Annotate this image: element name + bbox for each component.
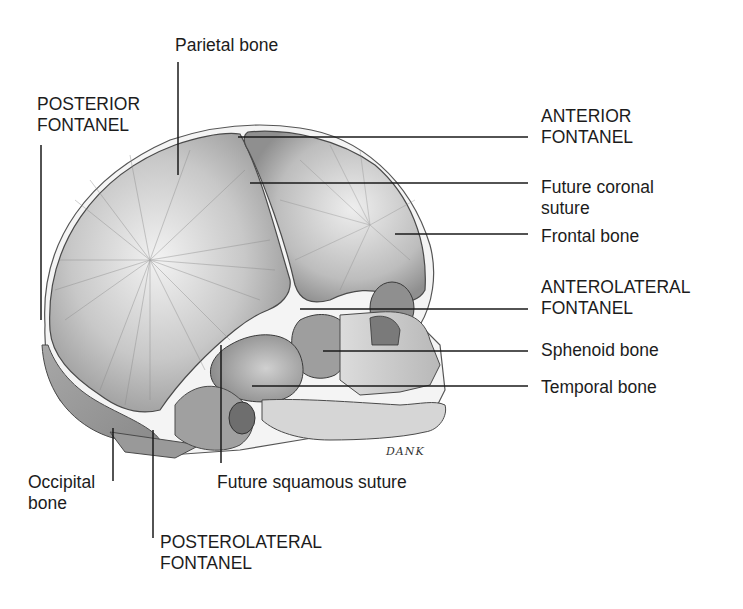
label-posterior-fontanel: POSTERIOR FONTANEL (37, 94, 140, 136)
label-temporal-bone: Temporal bone (541, 377, 657, 398)
ear-canal-shape (229, 402, 255, 434)
mandible-shape (262, 399, 446, 440)
label-future-squamous-suture: Future squamous suture (217, 472, 407, 493)
label-anterolateral-fontanel: ANTEROLATERAL FONTANEL (541, 277, 690, 319)
label-frontal-bone: Frontal bone (541, 226, 639, 247)
label-parietal-bone: Parietal bone (175, 35, 278, 56)
label-posterolateral-fontanel: POSTEROLATERAL FONTANEL (160, 532, 322, 574)
label-occipital-bone: Occipital bone (28, 472, 95, 514)
label-future-coronal-suture: Future coronal suture (541, 177, 654, 219)
label-sphenoid-bone: Sphenoid bone (541, 340, 659, 361)
artist-signature: DANK (386, 445, 425, 458)
label-anterior-fontanel: ANTERIOR FONTANEL (541, 106, 633, 148)
